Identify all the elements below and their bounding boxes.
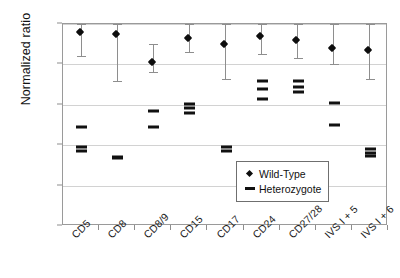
diamond-marker-icon [243,171,256,176]
y-axis-title: Normalized ratio [19,0,37,144]
heterozygote-data-point [329,101,340,104]
error-bar [261,24,262,54]
wild-type-data-point [364,46,372,54]
x-axis-tick-mark [279,225,280,230]
error-bar-cap [113,81,122,82]
error-bar-cap [330,24,339,25]
error-bar-cap [77,24,86,25]
x-axis-tick-mark [243,225,244,230]
dash-marker-icon [243,187,256,190]
x-axis-tick-mark [134,225,135,230]
x-axis-tick-mark [351,225,352,230]
heterozygote-data-point [257,87,268,90]
chart-container: Normalized ratio 0,000,200,400,600,801,0… [0,0,400,278]
heterozygote-data-point [112,157,123,160]
legend-label-heterozygote: Heterozygote [259,183,321,195]
error-bar-cap [258,54,267,55]
heterozygote-data-point [184,102,195,105]
heterozygote-data-point [76,150,87,153]
heterozygote-data-point [184,106,195,109]
error-bar-cap [149,72,158,73]
error-bar-cap [222,79,231,80]
error-bar-cap [294,24,303,25]
gridline [63,105,386,106]
heterozygote-data-point [293,79,304,82]
wild-type-data-point [292,36,300,44]
error-bar-cap [185,52,194,53]
heterozygote-data-point [293,90,304,93]
heterozygote-data-point [221,146,232,149]
wild-type-data-point [75,28,83,36]
error-bar-cap [222,24,231,25]
legend-item-heterozygote: Heterozygote [243,181,321,196]
error-bar-cap [185,24,194,25]
wild-type-data-point [328,44,336,52]
heterozygote-data-point [148,109,159,112]
legend-label-wild-type: Wild-Type [259,168,306,180]
error-bar-cap [149,44,158,45]
error-bar-cap [366,24,375,25]
error-bar-cap [330,64,339,65]
heterozygote-data-point [257,79,268,82]
error-bar [333,24,334,64]
error-bar-cap [258,24,267,25]
error-bar [225,24,226,79]
wild-type-data-point [111,30,119,38]
legend: Wild-Type Heterozygote [236,161,329,202]
x-axis-tick-mark [98,225,99,230]
legend-item-wild-type: Wild-Type [243,166,321,181]
x-axis-tick-mark [387,225,388,230]
heterozygote-data-point [184,111,195,114]
x-axis-tick-mark [315,225,316,230]
x-axis-tick-mark [170,225,171,230]
error-bar-cap [366,79,375,80]
heterozygote-data-point [293,85,304,88]
heterozygote-data-point [365,148,376,151]
plot-area [62,23,387,225]
heterozygote-data-point [221,150,232,153]
wild-type-data-point [256,32,264,40]
wild-type-data-point [184,34,192,42]
x-axis-tick-mark [206,225,207,230]
heterozygote-data-point [329,124,340,127]
gridline [63,186,386,187]
wild-type-data-point [220,40,228,48]
error-bar-cap [294,58,303,59]
heterozygote-data-point [76,126,87,129]
heterozygote-data-point [148,126,159,129]
heterozygote-data-point [365,155,376,158]
heterozygote-data-point [76,146,87,149]
error-bar-cap [113,24,122,25]
error-bar-cap [77,56,86,57]
heterozygote-data-point [257,97,268,100]
